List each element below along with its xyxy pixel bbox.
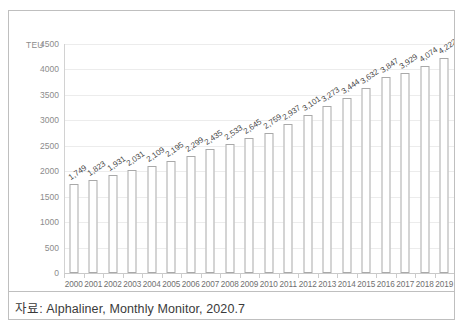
bar-item[interactable]: 2,109 [142, 44, 162, 273]
x-axis-tick [318, 273, 319, 278]
bar[interactable] [284, 124, 293, 273]
x-axis-tick-label: 2000 [65, 280, 83, 289]
bar-item[interactable]: 2,435 [201, 44, 221, 273]
bar[interactable] [89, 180, 98, 273]
x-axis-tick [162, 273, 163, 278]
x-axis-tick [142, 273, 143, 278]
x-axis-tick [435, 273, 436, 278]
x-axis-tick-label: 2006 [182, 280, 200, 289]
bar-item[interactable]: 4,074 [415, 44, 435, 273]
source-caption: 자료: Alphaliner, Monthly Monitor, 2020.7 [15, 298, 245, 317]
bar-item[interactable]: 1,823 [84, 44, 104, 273]
x-axis-tick [181, 273, 182, 278]
bar[interactable] [323, 106, 332, 273]
bar[interactable] [401, 73, 410, 273]
bar-item[interactable]: 2,299 [181, 44, 201, 273]
bar-item[interactable]: 3,101 [298, 44, 318, 273]
bar-item[interactable]: 2,533 [220, 44, 240, 273]
x-axis-tick [376, 273, 377, 278]
y-axis-tick-label: 2500 [40, 141, 59, 151]
bar[interactable] [69, 184, 78, 273]
x-axis-tick-label: 2003 [123, 280, 141, 289]
bar[interactable] [225, 144, 234, 273]
x-axis-tick [84, 273, 85, 278]
y-axis-tick-label: 1000 [40, 217, 59, 227]
y-axis-tick-label: 2000 [40, 166, 59, 176]
x-axis-tick [279, 273, 280, 278]
x-axis-tick [357, 273, 358, 278]
x-axis-tick [103, 273, 104, 278]
bar[interactable] [342, 98, 351, 273]
x-axis-tick [337, 273, 338, 278]
bar-item[interactable]: 2,759 [259, 44, 279, 273]
bar-item[interactable]: 3,632 [357, 44, 377, 273]
x-axis-tick-label: 2017 [396, 280, 414, 289]
bar-series: 1,7491,8231,9312,0312,1092,1952,2992,435… [64, 44, 454, 273]
bar-item[interactable]: 4,222 [435, 44, 455, 273]
bar-item[interactable]: 3,929 [396, 44, 416, 273]
x-axis-tick-label: 2016 [377, 280, 395, 289]
bar[interactable] [420, 66, 429, 273]
bar[interactable] [147, 166, 156, 273]
bar-value-label: 4,222 [437, 37, 454, 56]
x-axis-tick [123, 273, 124, 278]
bar[interactable] [108, 175, 117, 273]
x-axis-tick-label: 2005 [162, 280, 180, 289]
bar-item[interactable]: 3,444 [337, 44, 357, 273]
x-axis-tick [396, 273, 397, 278]
x-axis-tick-label: 2012 [299, 280, 317, 289]
x-axis-tick-label: 2015 [357, 280, 375, 289]
bar[interactable] [264, 133, 273, 273]
x-axis-tick-label: 2001 [84, 280, 102, 289]
bar-item[interactable]: 2,031 [123, 44, 143, 273]
x-axis-tick [259, 273, 260, 278]
x-axis-tick [240, 273, 241, 278]
bar[interactable] [303, 115, 312, 273]
bar[interactable] [245, 138, 254, 273]
plot-area: 050010001500200025003000350040004500 1,7… [64, 44, 454, 273]
x-axis-tick-label: 2004 [143, 280, 161, 289]
bar-item[interactable]: 2,937 [279, 44, 299, 273]
bar-item[interactable]: 3,847 [376, 44, 396, 273]
bar-item[interactable]: 3,273 [318, 44, 338, 273]
y-axis-tick-label: 1500 [40, 192, 59, 202]
x-axis-tick-label: 2013 [318, 280, 336, 289]
chart-figure: TEU 050010001500200025003000350040004500… [0, 0, 464, 330]
x-axis-tick-label: 2009 [240, 280, 258, 289]
bar[interactable] [206, 149, 215, 273]
x-axis-tick-label: 2007 [201, 280, 219, 289]
x-axis-tick [220, 273, 221, 278]
bar[interactable] [440, 58, 449, 273]
bar[interactable] [362, 88, 371, 273]
bar[interactable] [381, 77, 390, 273]
y-axis-tick-label: 3000 [40, 115, 59, 125]
bar-item[interactable]: 1,931 [103, 44, 123, 273]
bar-item[interactable]: 2,645 [240, 44, 260, 273]
y-axis-tick-label: 3500 [40, 90, 59, 100]
bar-item[interactable]: 2,195 [162, 44, 182, 273]
bar[interactable] [167, 161, 176, 273]
chart-plot-region: TEU 050010001500200025003000350040004500… [9, 11, 454, 290]
x-axis-tick-label: 2008 [221, 280, 239, 289]
x-axis-tick-label: 2019 [435, 280, 453, 289]
x-axis-tick [415, 273, 416, 278]
x-axis-tick-label: 2018 [416, 280, 434, 289]
x-axis-tick [298, 273, 299, 278]
y-axis-tick-label: 0 [54, 268, 59, 278]
x-axis-tick-label: 2010 [260, 280, 278, 289]
y-axis-tick-label: 4500 [40, 39, 59, 49]
x-axis-tick [64, 273, 65, 278]
x-axis-tick-label: 2014 [338, 280, 356, 289]
x-axis-labels: 2000200120022003200420052006200720082009… [64, 280, 454, 290]
x-axis-tick [201, 273, 202, 278]
y-axis-tick-label: 4000 [40, 64, 59, 74]
x-axis-tick-label: 2002 [104, 280, 122, 289]
bar[interactable] [186, 156, 195, 273]
x-axis-tick-label: 2011 [279, 280, 297, 289]
bar[interactable] [128, 170, 137, 273]
y-axis-tick-label: 500 [45, 243, 59, 253]
bar-item[interactable]: 1,749 [64, 44, 84, 273]
x-axis-ticks [64, 273, 454, 278]
